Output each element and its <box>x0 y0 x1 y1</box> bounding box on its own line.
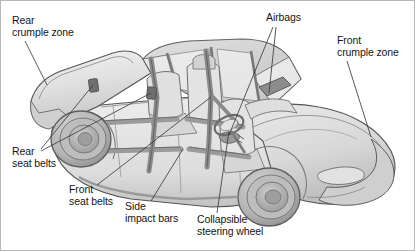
rear-wheel <box>51 111 111 167</box>
front-seat-rear <box>187 61 223 123</box>
label-collapsible-steering-wheel-line1: Collapsible <box>197 213 247 225</box>
rear-hub-cap <box>78 133 92 146</box>
label-airbags: Airbags <box>266 12 301 24</box>
label-collapsible-steering-wheel: Collapsiblesteering wheel <box>197 214 263 237</box>
label-front-crumple-zone: Frontcrumple zone <box>337 35 399 58</box>
label-side-impact-bars-line1: Side <box>125 200 146 212</box>
label-side-impact-bars: Sideimpact bars <box>125 201 178 224</box>
label-rear-crumple-zone-line2: crumple zone <box>12 26 74 38</box>
front-hub-cap <box>265 190 281 204</box>
rear-seat-belt-anchor <box>88 78 99 92</box>
rear-seat-belt-buckle <box>146 87 156 100</box>
label-rear-crumple-zone: Rearcrumple zone <box>12 15 74 38</box>
label-collapsible-steering-wheel-line2: steering wheel <box>197 225 263 237</box>
label-rear-seat-belts-line1: Rear <box>12 145 34 157</box>
label-airbags-line1: Airbags <box>266 11 301 23</box>
leader-rear-crumple-zone <box>25 41 47 85</box>
label-front-seat-belts-line1: Front <box>69 183 93 195</box>
label-rear-crumple-zone-line1: Rear <box>12 14 34 26</box>
label-front-crumple-zone-line1: Front <box>337 34 361 46</box>
label-front-crumple-zone-line2: crumple zone <box>337 46 399 58</box>
label-rear-seat-belts-line2: seat belts <box>12 157 56 169</box>
label-front-seat-belts: Frontseat belts <box>69 184 113 207</box>
front-seat-rear-headrest <box>193 55 215 70</box>
label-rear-seat-belts: Rearseat belts <box>12 146 56 169</box>
label-side-impact-bars-line2: impact bars <box>125 212 178 224</box>
label-front-seat-belts-line2: seat belts <box>69 195 113 207</box>
car-safety-diagram: Rearcrumple zone Airbags Frontcrumple zo… <box>0 0 415 251</box>
